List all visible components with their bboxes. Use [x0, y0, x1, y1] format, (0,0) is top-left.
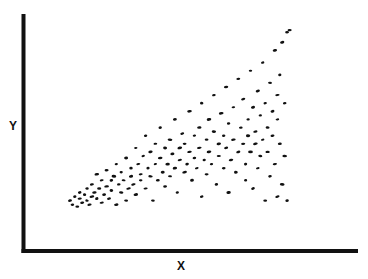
data-point	[212, 94, 216, 97]
data-point	[266, 126, 270, 129]
data-point	[75, 206, 79, 208]
data-point	[95, 197, 99, 200]
data-point	[197, 126, 202, 129]
data-point	[275, 94, 280, 97]
data-point	[234, 171, 238, 174]
data-point	[207, 118, 212, 121]
data-point	[231, 138, 236, 141]
data-point	[283, 102, 287, 105]
scatter-chart: Y X	[0, 0, 368, 279]
data-point	[195, 167, 199, 170]
data-point	[158, 126, 161, 129]
data-point	[275, 195, 280, 198]
data-point	[278, 73, 281, 76]
data-point	[68, 199, 72, 202]
data-point	[71, 203, 75, 206]
data-point	[85, 187, 89, 190]
data-point	[258, 155, 262, 158]
data-point	[170, 152, 174, 155]
data-point	[270, 109, 274, 113]
data-point	[278, 142, 282, 145]
data-point	[190, 179, 194, 182]
data-point	[263, 102, 267, 105]
data-point	[114, 203, 119, 206]
data-point	[154, 143, 158, 145]
data-point	[165, 162, 170, 165]
data-point	[163, 146, 167, 149]
data-point	[222, 167, 226, 170]
data-point	[173, 167, 178, 170]
data-point	[282, 155, 287, 158]
data-point	[124, 200, 128, 202]
data-point	[268, 82, 272, 84]
data-point	[255, 89, 260, 93]
data-point	[120, 171, 123, 174]
data-point	[244, 179, 247, 182]
data-point	[236, 150, 241, 153]
data-point	[100, 179, 104, 182]
data-point	[92, 191, 97, 194]
data-point	[94, 173, 99, 176]
data-point	[168, 175, 172, 177]
data-point	[136, 163, 140, 166]
x-axis-label: X	[177, 259, 185, 273]
data-point	[287, 29, 291, 31]
data-points	[68, 29, 292, 208]
data-point	[173, 118, 177, 121]
data-point	[228, 158, 233, 161]
y-axis-label: Y	[9, 119, 17, 133]
data-point	[146, 167, 149, 170]
data-point	[285, 31, 289, 33]
data-point	[265, 151, 269, 153]
data-point	[215, 183, 219, 186]
data-point	[78, 191, 82, 194]
data-point	[187, 151, 192, 154]
data-point	[280, 40, 285, 44]
data-point	[176, 191, 180, 194]
data-point	[256, 167, 260, 170]
data-point	[73, 195, 76, 198]
data-point	[200, 102, 203, 105]
data-point	[83, 193, 86, 196]
data-point	[182, 170, 187, 174]
data-point	[216, 142, 221, 145]
data-point	[168, 138, 173, 141]
data-point	[133, 193, 138, 197]
data-point	[193, 134, 197, 136]
data-point	[219, 112, 224, 115]
data-point	[107, 197, 111, 200]
data-point	[210, 163, 214, 166]
data-point	[119, 191, 124, 194]
data-point	[97, 187, 101, 189]
data-point	[202, 158, 206, 161]
data-point	[275, 118, 279, 120]
data-point	[144, 134, 148, 137]
data-point	[156, 179, 160, 182]
data-point	[104, 185, 109, 188]
data-point	[111, 175, 116, 178]
data-point	[129, 167, 132, 170]
data-point	[231, 106, 235, 109]
data-point	[154, 163, 158, 166]
data-point	[105, 169, 109, 172]
data-point	[80, 201, 84, 204]
data-point	[285, 199, 289, 202]
data-point	[117, 183, 121, 185]
data-point	[259, 114, 262, 117]
data-point	[161, 171, 165, 174]
data-point	[122, 179, 126, 181]
data-point	[261, 138, 265, 141]
data-point	[226, 191, 231, 194]
data-point	[183, 143, 187, 145]
data-point	[239, 126, 243, 129]
data-point	[193, 157, 197, 160]
data-point	[124, 156, 128, 159]
data-point	[131, 183, 136, 186]
data-point	[200, 195, 204, 198]
data-point	[151, 199, 155, 201]
data-point	[115, 163, 119, 166]
data-point	[249, 70, 253, 72]
data-point	[148, 175, 153, 178]
data-point	[268, 175, 272, 178]
data-point	[158, 156, 163, 159]
